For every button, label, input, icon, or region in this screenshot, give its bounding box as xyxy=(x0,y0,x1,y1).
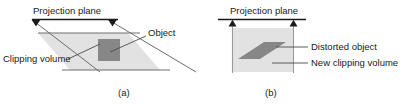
figure-illustration: Projection plane Clipping volume Object … xyxy=(0,0,410,104)
label-object: Object xyxy=(148,27,176,38)
label-distorted-object: Distorted object xyxy=(311,41,377,52)
object-shape xyxy=(98,39,120,61)
caption-panel-b: (b) xyxy=(265,87,277,98)
label-clipping-volume: Clipping volume xyxy=(3,53,71,64)
arrowhead-down-right xyxy=(108,20,117,27)
panel-a: Projection plane Clipping volume Object … xyxy=(3,5,196,98)
caption-panel-a: (a) xyxy=(118,87,130,98)
panel-b: Projection plane Distorted object New cl… xyxy=(218,5,398,98)
label-projection-plane-a: Projection plane xyxy=(33,5,101,16)
label-projection-plane-b: Projection plane xyxy=(230,5,298,16)
figure-container: Projection plane Clipping volume Object … xyxy=(0,0,410,104)
label-new-clipping-volume: New clipping volume xyxy=(311,57,398,68)
arrowhead-up-right xyxy=(290,20,298,27)
arrowhead-up-left xyxy=(229,20,237,27)
